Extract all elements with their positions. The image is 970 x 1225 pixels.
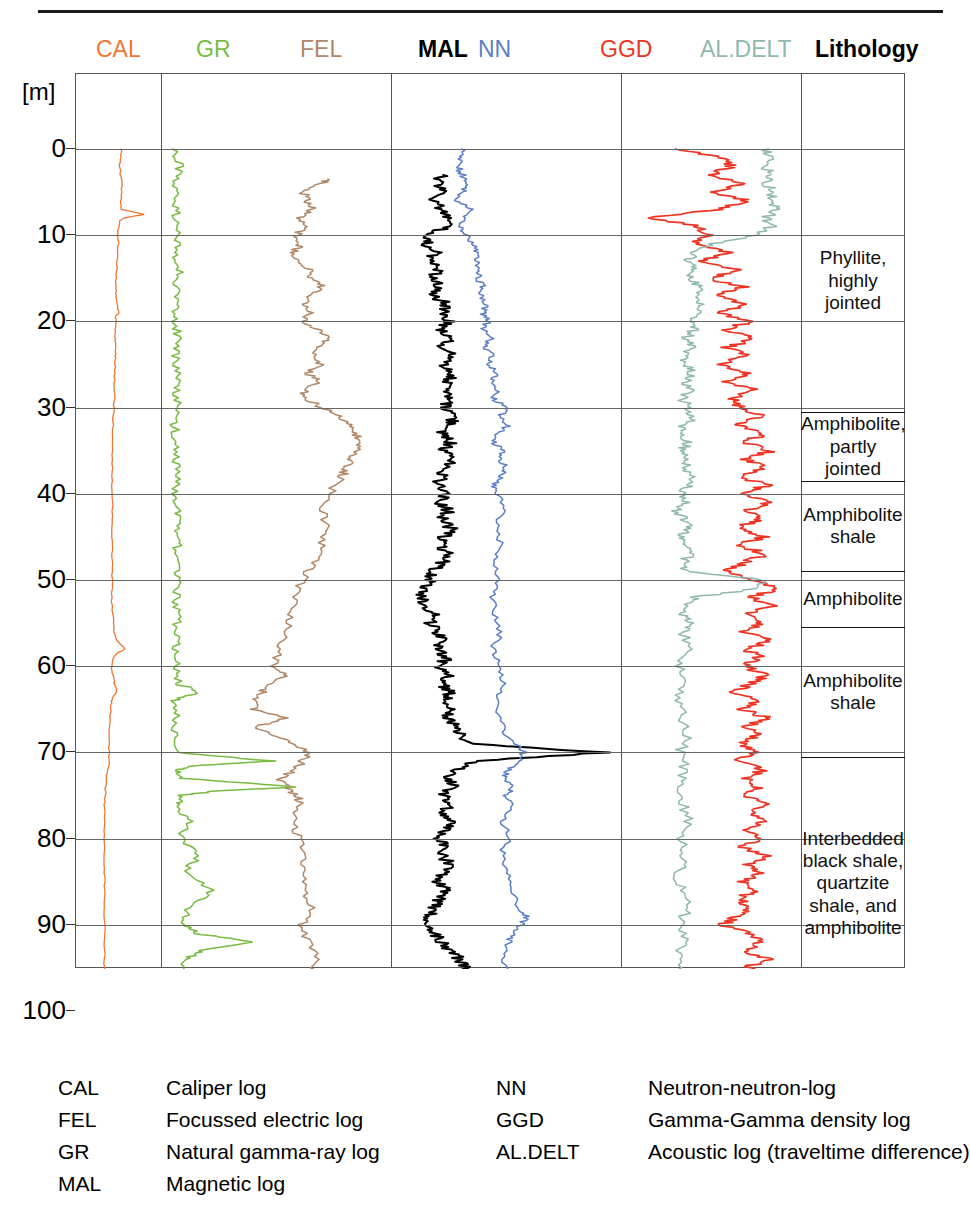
track-header-gr: GR xyxy=(196,36,231,63)
depth-gridline xyxy=(76,494,904,495)
legend-abbr: NN xyxy=(496,1072,648,1104)
depth-tick xyxy=(66,751,75,752)
lithology-label-line: shale xyxy=(801,526,905,548)
lithology-label-line: Amphibolite xyxy=(801,670,905,692)
depth-zero-line xyxy=(76,149,904,150)
depth-tick xyxy=(66,493,75,494)
lithology-boundary xyxy=(801,627,905,628)
depth-tick xyxy=(66,320,75,321)
legend-definition: Natural gamma-ray log xyxy=(166,1136,496,1168)
track-header-aldelt: AL.DELT xyxy=(700,36,792,63)
depth-tick xyxy=(66,148,75,149)
depth-tick-label: 40 xyxy=(8,477,66,508)
lithology-label-line: quartzite xyxy=(801,873,905,895)
track-header-mal: MAL xyxy=(418,36,468,63)
depth-gridline xyxy=(76,580,904,581)
log-curve-fel xyxy=(251,179,362,969)
depth-gridline xyxy=(76,235,904,236)
legend-definition xyxy=(648,1168,938,1200)
lithology-label-line: Interbedded xyxy=(801,828,905,850)
log-curve-ggd xyxy=(648,149,777,969)
depth-tick-label: 30 xyxy=(8,391,66,422)
legend-abbr: AL.DELT xyxy=(496,1136,648,1168)
lithology-label-line: jointed xyxy=(801,457,905,479)
legend-definition: Neutron-neutron-log xyxy=(648,1072,938,1104)
log-curve-gr xyxy=(170,149,295,969)
depth-tick-label: 100 xyxy=(8,995,66,1026)
legend-abbr: GGD xyxy=(496,1104,648,1136)
lithology-label-line: shale, and xyxy=(801,895,905,917)
lithology-unit-label: Amphibolite xyxy=(801,588,905,610)
lithology-unit-label: Interbeddedblack shale,quartziteshale, a… xyxy=(801,828,905,939)
depth-gridline xyxy=(76,666,904,667)
lithology-label-line: highly xyxy=(801,269,905,291)
legend-abbr: GR xyxy=(58,1136,166,1168)
lithology-label-line: partly xyxy=(801,435,905,457)
log-curves xyxy=(76,74,906,969)
depth-gridline xyxy=(76,408,904,409)
log-curve-cal xyxy=(103,149,144,969)
depth-tick xyxy=(66,838,75,839)
depth-tick-label: 50 xyxy=(8,564,66,595)
depth-tick xyxy=(66,579,75,580)
depth-gridline xyxy=(76,321,904,322)
legend-row: MALMagnetic log xyxy=(58,1168,938,1200)
depth-gridline xyxy=(76,839,904,840)
legend-definition: Caliper log xyxy=(166,1072,496,1104)
depth-tick-label: 60 xyxy=(8,650,66,681)
legend-row: FELFocussed electric logGGDGamma-Gamma d… xyxy=(58,1104,938,1136)
depth-gridline xyxy=(76,752,904,753)
track-separator xyxy=(621,74,622,967)
legend-definition: Focussed electric log xyxy=(166,1104,496,1136)
abbreviation-legend: CALCaliper logNNNeutron-neutron-logFELFo… xyxy=(58,1072,938,1200)
legend-row: CALCaliper logNNNeutron-neutron-log xyxy=(58,1072,938,1104)
depth-tick-label: 10 xyxy=(8,219,66,250)
lithology-column: Phyllite,highlyjointedAmphibolite,partly… xyxy=(801,74,905,967)
depth-tick xyxy=(66,924,75,925)
legend-abbr: MAL xyxy=(58,1168,166,1200)
lithology-label-line: amphibolite xyxy=(801,917,905,939)
depth-tick-label: 80 xyxy=(8,822,66,853)
track-header-ggd: GGD xyxy=(600,36,652,63)
lithology-label-line: black shale, xyxy=(801,851,905,873)
legend-definition: Gamma-Gamma density log xyxy=(648,1104,938,1136)
track-header-nn: NN xyxy=(478,36,511,63)
track-separator xyxy=(161,74,162,967)
depth-tick xyxy=(66,1010,75,1011)
log-curve-nn xyxy=(455,149,530,969)
depth-tick-label: 90 xyxy=(8,908,66,939)
lithology-boundary xyxy=(801,481,905,482)
depth-tick-label: 20 xyxy=(8,305,66,336)
track-header-cal: CAL xyxy=(96,36,141,63)
depth-tick xyxy=(66,407,75,408)
track-header-fel: FEL xyxy=(300,36,342,63)
lithology-label-line: Amphibolite xyxy=(801,588,905,610)
legend-row: GRNatural gamma-ray logAL.DELTAcoustic l… xyxy=(58,1136,938,1168)
lithology-label-line: Amphibolite, xyxy=(801,413,905,435)
depth-tick xyxy=(66,665,75,666)
lithology-label-line: jointed xyxy=(801,292,905,314)
depth-gridline xyxy=(76,925,904,926)
depth-unit-label: [m] xyxy=(22,78,55,106)
lithology-unit-label: Amphibolite,partlyjointed xyxy=(801,413,905,480)
legend-definition: Acoustic log (traveltime difference) xyxy=(648,1136,970,1168)
lithology-boundary xyxy=(801,571,905,572)
lithology-label-line: Phyllite, xyxy=(801,247,905,269)
legend-definition: Magnetic log xyxy=(166,1168,496,1200)
lithology-unit-label: Amphiboliteshale xyxy=(801,504,905,548)
legend-abbr xyxy=(496,1168,648,1200)
lithology-boundary xyxy=(801,757,905,758)
log-curve-mal xyxy=(416,175,610,969)
track-header-lithology: Lithology xyxy=(815,36,918,63)
depth-tick xyxy=(66,234,75,235)
lithology-unit-label: Amphiboliteshale xyxy=(801,670,905,714)
lithology-label-line: Amphibolite xyxy=(801,504,905,526)
lithology-label-line: shale xyxy=(801,692,905,714)
track-separator xyxy=(391,74,392,967)
log-curve-al-delt xyxy=(672,149,780,969)
depth-tick-label: 70 xyxy=(8,736,66,767)
legend-abbr: CAL xyxy=(58,1072,166,1104)
cropped-caption-top xyxy=(200,0,720,8)
depth-tick-label: 0 xyxy=(8,133,66,164)
